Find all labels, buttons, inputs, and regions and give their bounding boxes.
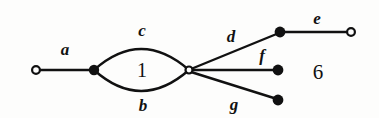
edge-label-e: e: [313, 10, 321, 27]
edge-label-a: a: [61, 41, 70, 58]
middle-filled-vertex: [273, 65, 284, 76]
figure-container: a c b d e f g 1 6: [0, 0, 379, 118]
edge-label-b: b: [139, 97, 148, 114]
left-open-vertex: [32, 66, 40, 74]
vertices-group: [32, 27, 355, 106]
left-filled-vertex: [89, 65, 99, 75]
edge-label-c: c: [138, 22, 146, 39]
right-open-vertex: [347, 28, 355, 36]
lower-filled-vertex: [273, 95, 284, 106]
hub-open-vertex: [186, 67, 193, 74]
figure-number: 6: [313, 62, 324, 83]
edge-label-f: f: [259, 47, 265, 64]
edges-group: [38, 32, 349, 99]
upper-filled-vertex: [275, 27, 286, 38]
edge-label-d: d: [227, 28, 236, 45]
edge-label-g: g: [230, 96, 239, 113]
face-label-1: 1: [137, 60, 147, 80]
